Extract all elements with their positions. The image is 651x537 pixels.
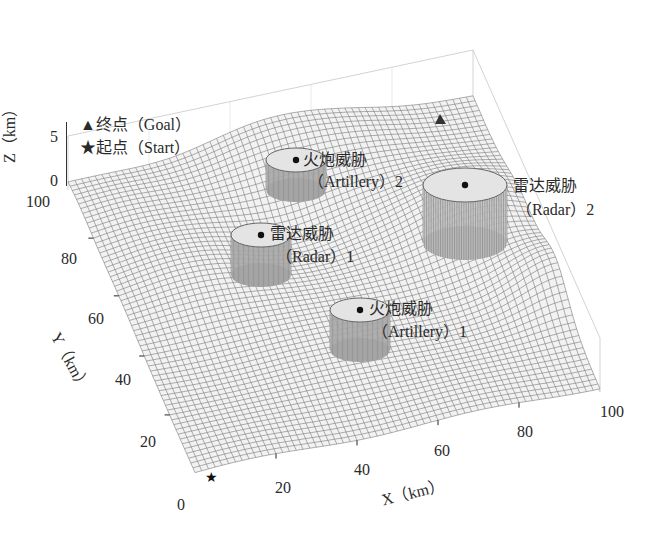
y-tick-60: 60: [88, 311, 104, 327]
artillery2-label: 火炮威胁: [303, 152, 367, 168]
radar2-label: 雷达威胁: [513, 178, 577, 194]
y-tick-40: 40: [115, 372, 131, 388]
radar2-sub: （Radar）2: [516, 202, 594, 218]
y-tick-80: 80: [61, 251, 77, 267]
artillery2-sub: （Artillery）2: [308, 174, 403, 190]
legend-goal: ▲终点（Goal）: [80, 117, 191, 133]
y-tick-100: 100: [26, 194, 50, 210]
x-tick-60: 60: [434, 443, 450, 459]
artillery1-label: 火炮威胁: [369, 301, 433, 317]
x-tick-20: 20: [275, 480, 291, 496]
svg-text:★: ★: [205, 470, 218, 485]
x-tick-80: 80: [517, 424, 533, 440]
z-axis-line: [66, 122, 67, 186]
radar1-sub: （Radar）1: [276, 249, 354, 265]
terrain-surface-plot: ★: [0, 0, 651, 537]
radar1-label: 雷达威胁: [270, 226, 334, 242]
y-tick-20: 20: [140, 434, 156, 450]
x-tick-100: 100: [600, 404, 624, 420]
threat-cylinder-2: [423, 168, 507, 260]
z-tick-0: 0: [50, 173, 58, 189]
x-tick-0: 0: [177, 497, 185, 513]
artillery1-sub: （Artillery）1: [372, 324, 467, 340]
z-tick-5: 5: [50, 129, 58, 145]
x-tick-40: 40: [354, 462, 370, 478]
legend-start: ★起点（Start）: [80, 140, 190, 156]
z-axis-label: Z（km）: [2, 101, 18, 163]
